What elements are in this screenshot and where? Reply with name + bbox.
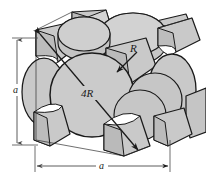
label-edge-horizontal: a	[99, 160, 104, 171]
fcc-diagram-svg: 4R R a a	[0, 0, 206, 177]
label-edge-vertical: a	[13, 84, 18, 95]
label-4R: 4R	[81, 87, 94, 99]
fcc-unit-cell-figure: 4R R a a	[0, 0, 206, 177]
label-R: R	[129, 42, 137, 54]
